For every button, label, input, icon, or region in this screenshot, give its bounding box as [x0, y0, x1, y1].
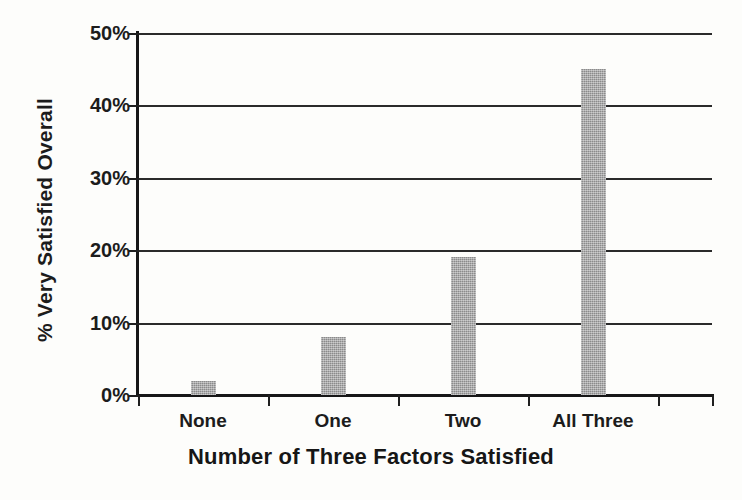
- x-axis-tick: [138, 395, 140, 406]
- y-axis-tick-labels: 0%10%20%30%40%50%: [58, 14, 130, 414]
- x-axis-tick: [268, 395, 270, 406]
- bar-one: [321, 337, 346, 395]
- y-axis-tick: [128, 323, 139, 325]
- y-axis-tick: [128, 105, 139, 107]
- y-axis-tick-label: 50%: [58, 22, 130, 45]
- gridline: [138, 178, 712, 180]
- x-axis-tick-label: All Three: [513, 410, 673, 432]
- y-axis-tick-label: 20%: [58, 239, 130, 262]
- y-axis-tick: [128, 178, 139, 180]
- x-axis-title: Number of Three Factors Satisfied: [0, 444, 742, 470]
- bar-two: [451, 257, 476, 395]
- gridline: [138, 323, 712, 325]
- y-axis-tick-label: 30%: [58, 166, 130, 189]
- bar-none: [191, 381, 216, 395]
- x-axis-tick: [398, 395, 400, 406]
- bar-chart-figure: % Very Satisfied Overall 0%10%20%30%40%5…: [0, 0, 742, 500]
- x-axis-tick: [658, 395, 660, 406]
- x-axis-tick: [528, 395, 530, 406]
- gridline: [138, 250, 712, 252]
- y-axis-tick-label: 40%: [58, 94, 130, 117]
- y-axis-tick-label: 10%: [58, 311, 130, 334]
- y-axis-tick: [128, 250, 139, 252]
- y-axis-tick-label: 0%: [58, 384, 130, 407]
- y-axis-tick: [128, 33, 139, 35]
- x-axis-end-tick: [712, 395, 714, 406]
- bar-all-three: [581, 69, 606, 395]
- plot-area: [138, 33, 712, 395]
- gridline: [138, 33, 712, 35]
- gridline: [138, 105, 712, 107]
